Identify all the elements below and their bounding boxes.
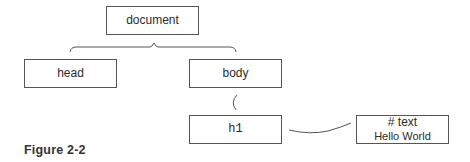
node-h1-label: h1 — [228, 123, 242, 137]
node-text: # text Hello World — [356, 115, 449, 144]
figure-caption: Figure 2-2 — [24, 143, 86, 157]
node-document: document — [106, 6, 199, 35]
node-h1: h1 — [189, 115, 282, 144]
node-body: body — [189, 59, 282, 88]
curve-connector-h1-text — [289, 123, 351, 133]
node-body-label: body — [222, 67, 248, 81]
node-text-value: Hello World — [374, 130, 431, 143]
node-head-label: head — [57, 67, 84, 81]
brace-connector-document-children — [70, 43, 236, 52]
node-text-label: # text — [388, 116, 417, 130]
node-head: head — [24, 59, 117, 88]
arc-connector-body-h1 — [233, 95, 237, 110]
node-document-label: document — [126, 14, 179, 28]
